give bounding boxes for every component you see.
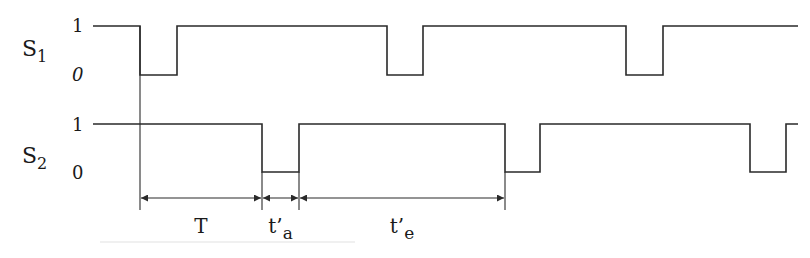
interval-label-te: t’e — [390, 214, 414, 243]
signal-s1-name: S1 — [22, 36, 47, 66]
signal-s2-name: S2 — [22, 143, 47, 173]
interval-label-ta: t’a — [268, 214, 293, 243]
signal-s2-waveform — [93, 124, 798, 172]
signal-s1-labels: S1 1 0 — [22, 15, 83, 85]
timing-diagram: S1 1 0 S2 1 0 Tt’at’e — [0, 0, 810, 258]
signal-s1-waveform — [93, 26, 798, 75]
signal-s2-labels: S2 1 0 — [22, 114, 83, 183]
signal-s2-level-high: 1 — [72, 114, 83, 135]
signal-s1-level-high: 1 — [72, 15, 83, 36]
signal-s2-level-low: 0 — [72, 162, 83, 183]
signal-s1-level-low: 0 — [72, 64, 83, 85]
interval-dimensions: Tt’at’e — [141, 172, 505, 243]
interval-label-T: T — [194, 214, 208, 238]
